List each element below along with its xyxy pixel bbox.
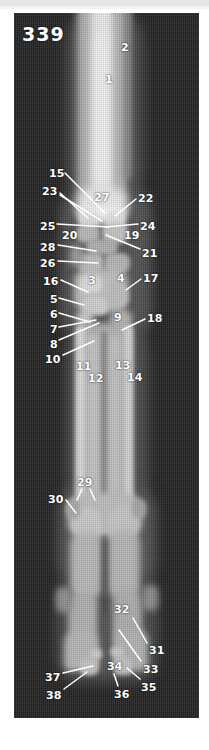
carpal-accessory-bone bbox=[70, 245, 84, 267]
annotation-label-15: 15 bbox=[49, 168, 64, 179]
annotation-label-10: 10 bbox=[45, 354, 60, 365]
annotation-label-22: 22 bbox=[138, 193, 153, 204]
dew-claw-lateral bbox=[142, 585, 158, 611]
annotation-label-34: 34 bbox=[107, 661, 122, 672]
annotation-label-33: 33 bbox=[143, 664, 158, 675]
annotation-label-26: 26 bbox=[40, 258, 55, 269]
figure-number: 339 bbox=[22, 23, 65, 45]
annotation-label-36: 36 bbox=[114, 689, 129, 700]
annotation-label-32: 32 bbox=[114, 604, 129, 615]
annotation-label-37: 37 bbox=[45, 672, 60, 683]
annotation-label-14: 14 bbox=[127, 372, 142, 383]
bone-medullary-cavity bbox=[94, 33, 108, 183]
radiograph-plate: 339 121523272225242019282126341716569187… bbox=[14, 13, 199, 718]
proximal-sesamoid-medial bbox=[66, 499, 80, 519]
annotation-label-6: 6 bbox=[50, 309, 58, 320]
annotation-label-11: 11 bbox=[76, 361, 91, 372]
metacarpus-longitudinal-groove bbox=[102, 331, 106, 501]
annotation-label-19: 19 bbox=[124, 230, 139, 241]
bone-shaft-proximal-cortex-medial bbox=[78, 13, 90, 203]
annotation-label-9: 9 bbox=[114, 312, 122, 323]
annotation-label-12: 12 bbox=[88, 373, 103, 384]
annotation-label-24: 24 bbox=[140, 221, 155, 232]
annotation-label-20: 20 bbox=[62, 230, 77, 241]
annotation-label-35: 35 bbox=[141, 682, 156, 693]
annotation-label-2: 2 bbox=[121, 42, 129, 53]
annotation-label-18: 18 bbox=[147, 313, 162, 324]
carpal-bone-facet-lateral bbox=[108, 285, 128, 307]
annotation-label-4: 4 bbox=[117, 273, 125, 284]
annotation-label-30: 30 bbox=[48, 494, 63, 505]
annotation-label-5: 5 bbox=[50, 294, 58, 305]
proximal-phalanx-medial bbox=[70, 533, 102, 599]
page-top-band-secondary bbox=[0, 6, 209, 9]
claw-apex-medial bbox=[80, 659, 98, 675]
bone-accessory-lateral-proximal bbox=[124, 13, 131, 179]
proximal-sesamoid-lateral bbox=[132, 499, 146, 519]
annotation-label-25: 25 bbox=[40, 221, 55, 232]
annotation-label-8: 8 bbox=[50, 339, 58, 350]
proximal-phalanx-lateral bbox=[108, 531, 140, 599]
annotation-label-23: 23 bbox=[42, 186, 57, 197]
annotation-label-27: 27 bbox=[94, 192, 109, 203]
distal-sesamoid-lateral bbox=[110, 647, 124, 657]
metacarpus-cortex-lateral bbox=[124, 325, 133, 505]
dew-claw-medial bbox=[56, 587, 72, 613]
annotation-label-29: 29 bbox=[77, 477, 92, 488]
annotation-label-3: 3 bbox=[88, 275, 96, 286]
annotation-label-38: 38 bbox=[46, 690, 61, 701]
annotation-label-1: 1 bbox=[105, 74, 113, 85]
annotation-label-21: 21 bbox=[142, 248, 157, 259]
annotation-label-13: 13 bbox=[115, 360, 130, 371]
annotation-label-28: 28 bbox=[40, 242, 55, 253]
annotation-label-31: 31 bbox=[149, 645, 164, 656]
figure-page: 339 121523272225242019282126341716569187… bbox=[0, 0, 209, 750]
annotation-label-16: 16 bbox=[43, 276, 58, 287]
annotation-label-7: 7 bbox=[50, 324, 58, 335]
annotation-label-17: 17 bbox=[143, 273, 158, 284]
interdigital-space-proximal bbox=[102, 535, 107, 597]
